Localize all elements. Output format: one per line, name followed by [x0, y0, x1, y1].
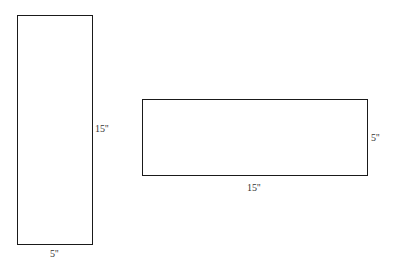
wide-rectangle-height-label: 5'': [371, 133, 380, 143]
tall-rectangle-width-label: 5'': [50, 249, 59, 259]
tall-rectangle-height-label: 15'': [95, 124, 109, 134]
wide-rectangle: [142, 99, 368, 176]
tall-rectangle: [17, 15, 93, 245]
wide-rectangle-width-label: 15'': [247, 183, 261, 193]
